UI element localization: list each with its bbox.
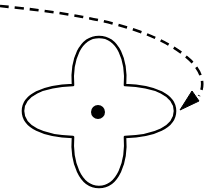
arrowhead-icon [180, 91, 199, 110]
diagram-canvas [0, 0, 221, 193]
pivot-dot [91, 105, 105, 119]
diagram-svg [0, 0, 221, 193]
